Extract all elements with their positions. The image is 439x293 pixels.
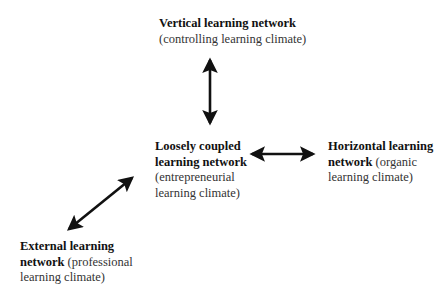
horizontal-subtitle-line2: learning climate) [328,170,433,186]
vertical-subtitle: (controlling learning climate) [159,32,306,48]
horizontal-title-line1: Horizontal learning [328,139,433,153]
horizontal-title-line2: network [328,155,372,169]
loosely-subtitle-line2: learning climate) [155,186,247,202]
loosely-subtitle-line1: (entrepreneurial [155,170,247,186]
node-vertical: Vertical learning network (controlling l… [159,16,306,47]
node-external: External learning network (professional … [20,239,133,286]
loosely-title-line1: Loosely coupled [155,139,241,153]
diagonal-arrow [69,178,132,229]
loosely-title-line2: learning network [155,155,247,169]
external-subtitle-inline: (professional [64,255,132,269]
vertical-title: Vertical learning network [159,16,296,30]
external-title-line2: network [20,255,64,269]
node-horizontal: Horizontal learning network (organic lea… [328,139,433,186]
external-title-line1: External learning [20,239,114,253]
external-subtitle-line2: learning climate) [20,270,133,286]
node-loosely-coupled: Loosely coupled learning network (entrep… [155,139,247,201]
horizontal-subtitle-inline: (organic [372,155,417,169]
